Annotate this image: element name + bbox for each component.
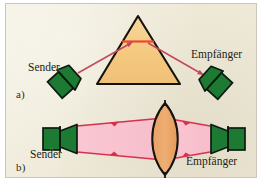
panel-label-b: b)	[16, 161, 26, 173]
receiver-label-b: Empfänger	[186, 155, 237, 167]
figure-canvas: a) b) Sender Empfänger Sender Empfänger	[0, 0, 262, 189]
sender-label-a: Sender	[28, 61, 60, 73]
sender-label-b: Sender	[30, 148, 62, 160]
receiver-label-a: Empfänger	[191, 48, 242, 60]
panel-label-a: a)	[16, 88, 25, 100]
transducer-receiver-b[interactable]	[211, 125, 245, 154]
lens-shape	[152, 100, 178, 178]
transducer-receiver-a[interactable]	[196, 63, 234, 101]
prism-shape	[97, 16, 180, 84]
